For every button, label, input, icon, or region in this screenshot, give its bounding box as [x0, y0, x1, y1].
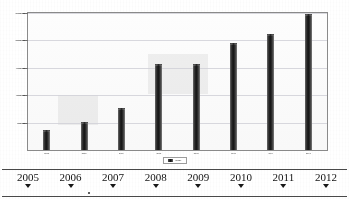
x-axis-label: 2006	[82, 152, 87, 155]
bar-cap	[81, 122, 88, 124]
triangle-down-icon	[280, 184, 286, 188]
grid-line	[28, 40, 327, 41]
timeline-year-2009[interactable]: 2009	[187, 171, 209, 188]
x-axis-label: 2009	[194, 152, 199, 155]
triangle-down-icon	[195, 184, 201, 188]
timeline-rule-bottom	[2, 196, 347, 197]
triangle-down-icon	[153, 184, 159, 188]
timeline-year-label: 2006	[60, 171, 82, 184]
bar-cap	[230, 43, 237, 45]
timeline-rule-top	[2, 169, 347, 170]
bar-cap	[193, 64, 200, 66]
grid-line	[28, 68, 327, 69]
timeline-year-2008[interactable]: 2008	[145, 171, 167, 188]
chart-bar	[81, 122, 88, 150]
legend-swatch-icon	[167, 159, 172, 162]
timeline-year-label: 2010	[230, 171, 252, 184]
chart-bar	[118, 108, 125, 150]
chart-bar	[155, 64, 162, 150]
timeline-year-label: 2012	[315, 171, 337, 184]
bar-cap	[305, 14, 312, 16]
legend-label: Serie1	[175, 159, 181, 162]
x-axis-label: 2008	[156, 152, 161, 155]
timeline-year-label: 2011	[273, 171, 295, 184]
x-axis-label: 2007	[119, 152, 124, 155]
triangle-down-icon	[238, 184, 244, 188]
bar-cap	[43, 130, 50, 132]
x-axis-label: 2012	[306, 152, 311, 155]
timeline-year-label: 2005	[17, 171, 39, 184]
y-axis-label: 500.000	[17, 121, 25, 124]
x-axis-label: 2010	[231, 152, 236, 155]
timeline-year-label: 2009	[187, 171, 209, 184]
timeline-year-2012[interactable]: 2012	[315, 171, 337, 188]
chart-bar	[193, 64, 200, 151]
timeline-year-label: 2007	[102, 171, 124, 184]
scanned-page: 500.0001.000.0001.500.0002.000.0002.500.…	[0, 0, 349, 199]
chart-bar	[43, 130, 50, 150]
y-axis-label: 2.500.000	[16, 12, 25, 15]
x-axis-label: 2005	[44, 152, 49, 155]
bar-chart: 500.0001.000.0001.500.0002.000.0002.500.…	[0, 0, 349, 168]
timeline-year-2006[interactable]: 2006	[60, 171, 82, 188]
chart-bar	[305, 14, 312, 150]
grid-line	[28, 123, 327, 124]
chart-legend: Serie1	[162, 157, 186, 164]
year-timeline: 20052006200720082009201020112012	[0, 168, 349, 199]
plot-area: 500.0001.000.0001.500.0002.000.0002.500.…	[27, 12, 328, 151]
triangle-down-icon	[110, 184, 116, 188]
chart-bar	[230, 43, 237, 150]
triangle-down-icon	[68, 184, 74, 188]
timeline-year-2005[interactable]: 2005	[17, 171, 39, 188]
bar-cap	[118, 108, 125, 110]
y-axis-label: 1.000.000	[16, 94, 25, 97]
triangle-down-icon	[323, 184, 329, 188]
triangle-down-icon	[25, 184, 31, 188]
bar-cap	[155, 64, 162, 66]
grid-line	[28, 95, 327, 96]
chart-bar	[267, 34, 274, 150]
x-axis-label: 2011	[269, 152, 274, 155]
timeline-year-2010[interactable]: 2010	[230, 171, 252, 188]
timeline-year-label: 2008	[145, 171, 167, 184]
y-axis-label: 2.000.000	[16, 39, 25, 42]
timeline-year-2007[interactable]: 2007	[102, 171, 124, 188]
timeline-year-2011[interactable]: 2011	[273, 171, 295, 188]
bar-cap	[267, 34, 274, 36]
y-axis-label: 1.500.000	[16, 66, 25, 69]
grid-line	[28, 13, 327, 14]
stray-ink-dot	[88, 192, 90, 194]
